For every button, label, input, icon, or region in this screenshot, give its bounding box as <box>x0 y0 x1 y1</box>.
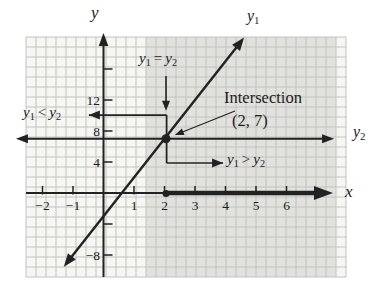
y-tick-label: 8 <box>93 124 100 139</box>
y-axis-label: y <box>91 4 99 23</box>
x-tick-label: 1 <box>131 198 138 213</box>
x-tick-label: 5 <box>253 198 260 213</box>
x-axis-solution-dot <box>163 190 170 197</box>
gt-b-sub: 2 <box>260 158 265 169</box>
x-tick-label: 4 <box>222 198 229 213</box>
x-tick-label: −1 <box>66 198 80 213</box>
x-tick-label: −2 <box>35 198 49 213</box>
lt-b-sub: 2 <box>56 111 61 122</box>
x-tick-label: 3 <box>192 198 199 213</box>
y-tick-label: 4 <box>93 155 100 170</box>
y1-sub: 1 <box>254 14 259 26</box>
y1-less-than-y2-label: y1<y2 <box>23 104 61 121</box>
y1-greater-than-y2-label: y1>y2 <box>227 151 265 168</box>
y2-sub: 2 <box>360 130 365 142</box>
inequality-graph-figure: −2−11234561284−8 y y1 y2 x y1=y2 y1<y2 y… <box>0 0 378 298</box>
lt-b: y <box>49 104 56 120</box>
intersection-dot <box>162 134 171 143</box>
x-tick-label: 6 <box>283 198 290 213</box>
y-tick-label: −8 <box>86 248 101 263</box>
eq-b-sub: 2 <box>172 57 177 68</box>
y1-equals-y2-label: y1=y2 <box>139 50 177 67</box>
graph-canvas: −2−11234561284−8 <box>0 0 378 298</box>
eq-a-sub: 1 <box>146 57 151 68</box>
lt-a: y <box>23 104 30 120</box>
lt-a-sub: 1 <box>30 111 35 122</box>
x-tick-label: 2 <box>161 198 168 213</box>
gt-b: y <box>253 151 260 167</box>
y-tick-label: 12 <box>87 93 101 108</box>
y2-line-label: y2 <box>353 123 366 141</box>
eq-op: = <box>154 50 162 66</box>
intersection-point-label: (2, 7) <box>232 112 268 130</box>
x-axis-label: x <box>345 183 353 202</box>
gt-a: y <box>227 151 234 167</box>
eq-a: y <box>139 50 146 66</box>
eq-b: y <box>165 50 172 66</box>
y1-line-label: y1 <box>247 7 260 25</box>
gt-a-sub: 1 <box>234 158 239 169</box>
y2-line-arrowhead <box>16 134 28 143</box>
intersection-title: Intersection <box>224 89 302 107</box>
lt-op: < <box>38 104 46 120</box>
gt-op: > <box>242 151 250 167</box>
